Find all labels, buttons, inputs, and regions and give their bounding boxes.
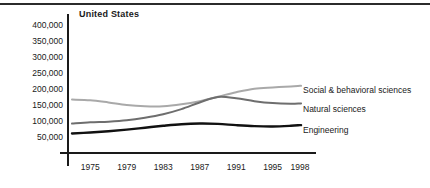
series-label-social-behavioral-sciences: Social & behavioral sciences [303, 85, 411, 95]
series-label-engineering: Engineering [303, 125, 348, 135]
series-line [72, 124, 301, 134]
chart-figure: United States 50,000100,000150,000200,00… [0, 0, 430, 188]
series-label-natural-sciences: Natural sciences [303, 104, 366, 114]
series-line [72, 97, 301, 124]
